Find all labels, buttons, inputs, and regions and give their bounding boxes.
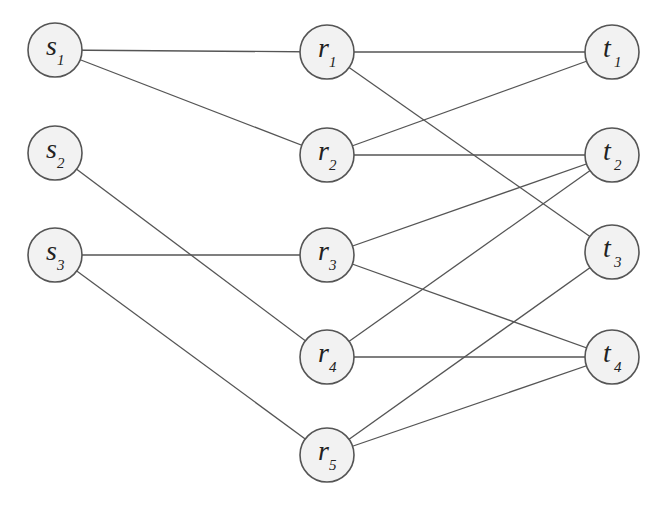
node-s3: s3 — [28, 228, 82, 282]
node-label: t — [603, 135, 612, 166]
node-subscript: 5 — [329, 457, 337, 473]
node-r4: r4 — [300, 330, 354, 384]
node-subscript: 2 — [614, 157, 622, 173]
graph-diagram: s1s2s3r1r2r3r4r5t1t2t3t4 — [0, 0, 666, 506]
node-r2: r2 — [300, 128, 354, 182]
node-circle — [585, 128, 639, 182]
node-label: r — [318, 337, 329, 368]
node-subscript: 1 — [329, 54, 337, 70]
node-s1: s1 — [28, 23, 82, 77]
node-subscript: 3 — [328, 257, 337, 273]
node-label: s — [46, 30, 57, 61]
node-subscript: 2 — [329, 157, 337, 173]
edge-r3-t4 — [327, 255, 612, 357]
node-label: r — [318, 135, 329, 166]
node-subscript: 4 — [614, 359, 622, 375]
node-t1: t1 — [585, 25, 639, 79]
edge-s1-r2 — [55, 50, 327, 155]
node-r5: r5 — [300, 428, 354, 482]
node-subscript: 3 — [613, 254, 622, 270]
node-t2: t2 — [585, 128, 639, 182]
node-label: s — [46, 235, 57, 266]
node-subscript: 1 — [614, 54, 622, 70]
node-label: r — [318, 435, 329, 466]
node-label: t — [603, 337, 612, 368]
node-circle — [585, 225, 639, 279]
nodes-layer: s1s2s3r1r2r3r4r5t1t2t3t4 — [28, 23, 639, 482]
edge-r2-t1 — [327, 52, 612, 155]
node-label: t — [603, 32, 612, 63]
node-subscript: 1 — [57, 52, 65, 68]
node-t4: t4 — [585, 330, 639, 384]
node-r3: r3 — [300, 228, 354, 282]
node-circle — [585, 25, 639, 79]
edge-r1-t3 — [327, 52, 612, 252]
node-s2: s2 — [28, 126, 82, 180]
node-label: r — [318, 32, 329, 63]
edge-r5-t3 — [327, 252, 612, 455]
node-label: s — [46, 133, 57, 164]
edge-s1-r1 — [55, 50, 327, 52]
node-r1: r1 — [300, 25, 354, 79]
node-subscript: 2 — [57, 155, 65, 171]
edge-r3-t2 — [327, 155, 612, 255]
node-label: t — [603, 232, 612, 263]
node-t3: t3 — [585, 225, 639, 279]
edge-s3-r5 — [55, 255, 327, 455]
edge-r4-t2 — [327, 155, 612, 357]
edge-r5-t4 — [327, 357, 612, 455]
node-label: r — [318, 235, 329, 266]
node-subscript: 4 — [329, 359, 337, 375]
node-circle — [585, 330, 639, 384]
node-subscript: 3 — [56, 257, 65, 273]
